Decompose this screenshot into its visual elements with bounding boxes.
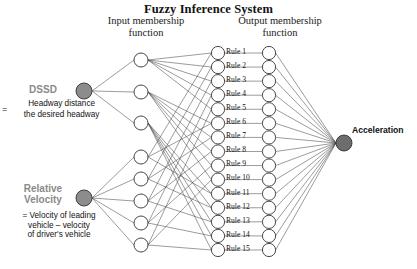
rule-node-6 (211, 117, 224, 130)
output-membership-node-8 (262, 145, 275, 158)
output-membership-node-10 (262, 173, 275, 186)
rule-node-2 (211, 60, 224, 73)
output-membership-node-2 (262, 60, 275, 73)
input-membership-node-5 (134, 194, 148, 208)
output-membership-node-14 (262, 229, 275, 242)
rule-node-3 (211, 75, 224, 88)
rule-node-13 (211, 215, 224, 228)
rule-node-7 (211, 131, 224, 144)
output-membership-node-11 (262, 187, 275, 200)
rule-node-15 (211, 243, 224, 256)
rule-node-12 (211, 201, 224, 214)
output-membership-node-1 (262, 46, 275, 59)
rule-node-14 (211, 229, 224, 242)
output-membership-node-15 (262, 243, 275, 256)
rule-node-1 (211, 46, 224, 59)
output-membership-node-4 (262, 89, 275, 102)
input-membership-node-2 (134, 116, 148, 130)
output-membership-node-12 (262, 201, 275, 214)
rule-node-9 (211, 159, 224, 172)
rule-node-10 (211, 173, 224, 186)
fuzzy-inference-diagram: Fuzzy Inference System Input membership … (0, 0, 417, 269)
input-membership-node-3 (134, 150, 148, 164)
output-membership-node-6 (262, 117, 275, 130)
input-membership-node-1 (134, 85, 148, 99)
output-membership-node-3 (262, 75, 275, 88)
rule-node-8 (211, 145, 224, 158)
output-membership-node-5 (262, 103, 275, 116)
output-membership-node-13 (262, 215, 275, 228)
rule-node-5 (211, 103, 224, 116)
input-membership-node-4 (134, 172, 148, 186)
network-nodes (0, 0, 417, 269)
rule-node-4 (211, 89, 224, 102)
rule-node-11 (211, 187, 224, 200)
input-membership-node-0 (134, 53, 148, 67)
output-membership-node-7 (262, 131, 275, 144)
output-membership-node-9 (262, 159, 275, 172)
input-node-dssd (76, 83, 92, 99)
input-membership-node-6 (134, 216, 148, 230)
output-node-acceleration (336, 135, 352, 151)
input-membership-node-7 (134, 238, 148, 252)
input-node-relative-velocity (76, 190, 92, 206)
